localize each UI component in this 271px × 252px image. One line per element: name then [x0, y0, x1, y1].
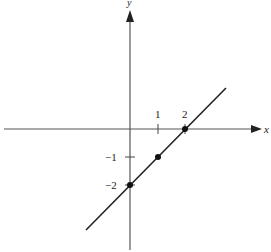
point-2-0 [182, 126, 188, 132]
point-1-neg1 [155, 154, 161, 160]
y-tick-label-neg2: −2 [105, 179, 117, 191]
y-axis: y [126, 0, 134, 250]
x-tick-label-2: 2 [182, 108, 188, 120]
y-axis-label: y [126, 0, 132, 8]
y-axis-arrow-icon [126, 10, 134, 22]
x-tick-label-1: 1 [155, 108, 161, 120]
x-axis-label: x [263, 123, 269, 135]
point-0-neg2 [127, 182, 133, 188]
x-axis: x [4, 123, 269, 135]
y-tick-label-neg1: −1 [105, 151, 117, 163]
x-axis-arrow-icon [251, 125, 262, 133]
coordinate-plot: x y 1 2 −1 −2 [0, 0, 271, 252]
